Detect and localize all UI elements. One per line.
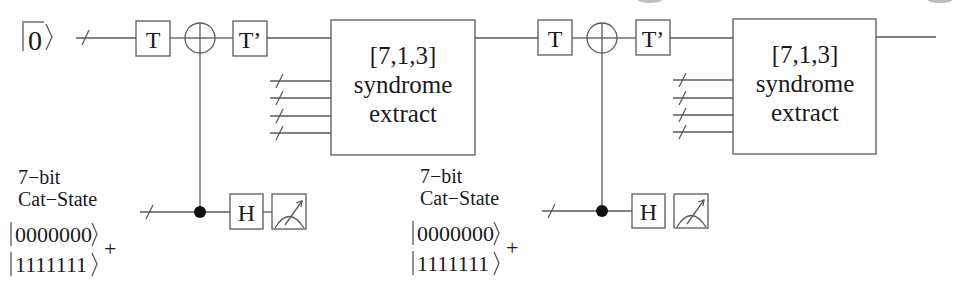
input-state-ket: 0 [23,21,52,56]
quantum-circuit-diagram: 0 T T’ [7,1,3] syndrome extract [0,0,954,294]
svg-text:+: + [506,235,518,260]
hadamard-gate: H [230,194,263,229]
svg-text:0000000: 0000000 [417,221,494,246]
t-dagger-gate: T’ [636,20,670,55]
scan-artifact [928,0,952,3]
svg-text:7−bit: 7−bit [420,165,463,187]
svg-text:H: H [238,200,255,226]
ket-bracket [46,24,52,50]
cnot-control-dot-icon [596,205,608,217]
svg-text:[7,1,3]: [7,1,3] [772,41,839,68]
scan-artifact [638,0,662,3]
svg-text:extract: extract [369,100,437,127]
svg-text:Cat−State: Cat−State [18,188,97,210]
svg-text:7−bit: 7−bit [18,166,61,188]
svg-text:[7,1,3]: [7,1,3] [370,42,437,69]
svg-text:T’: T’ [642,26,665,52]
svg-text:T: T [548,26,563,52]
measurement-meter-icon [272,194,306,229]
cnot-target-icon [185,23,215,212]
input-state-label: 0 [28,25,42,56]
cnot-target-icon [587,23,617,211]
cnot-control-dot-icon [194,206,206,218]
cat-state-label: 7−bit Cat−State 0000000 + 1111111 [11,166,116,277]
bus-inputs [673,73,733,139]
svg-text:T: T [146,27,161,53]
svg-text:Cat−State: Cat−State [420,187,499,209]
svg-text:syndrome: syndrome [756,70,855,97]
cat-state-label: 7−bit Cat−State 0000000 + 1111111 [413,165,518,276]
svg-text:H: H [640,199,657,225]
svg-text:1111111: 1111111 [417,251,489,276]
syndrome-extract-box: [7,1,3] syndrome extract [733,19,876,154]
syndrome-extract-box: [7,1,3] syndrome extract [331,20,475,155]
svg-text:0000000: 0000000 [15,222,92,247]
t-gate: T [136,21,170,56]
svg-text:extract: extract [771,99,839,126]
bus-inputs [270,74,331,140]
svg-text:+: + [104,236,116,261]
measurement-meter-icon [674,194,708,228]
svg-text:T’: T’ [239,27,262,53]
svg-text:syndrome: syndrome [354,71,453,98]
svg-text:1111111: 1111111 [15,252,87,277]
t-dagger-gate: T’ [233,21,267,56]
t-gate: T [538,20,572,55]
hadamard-gate: H [632,194,665,228]
